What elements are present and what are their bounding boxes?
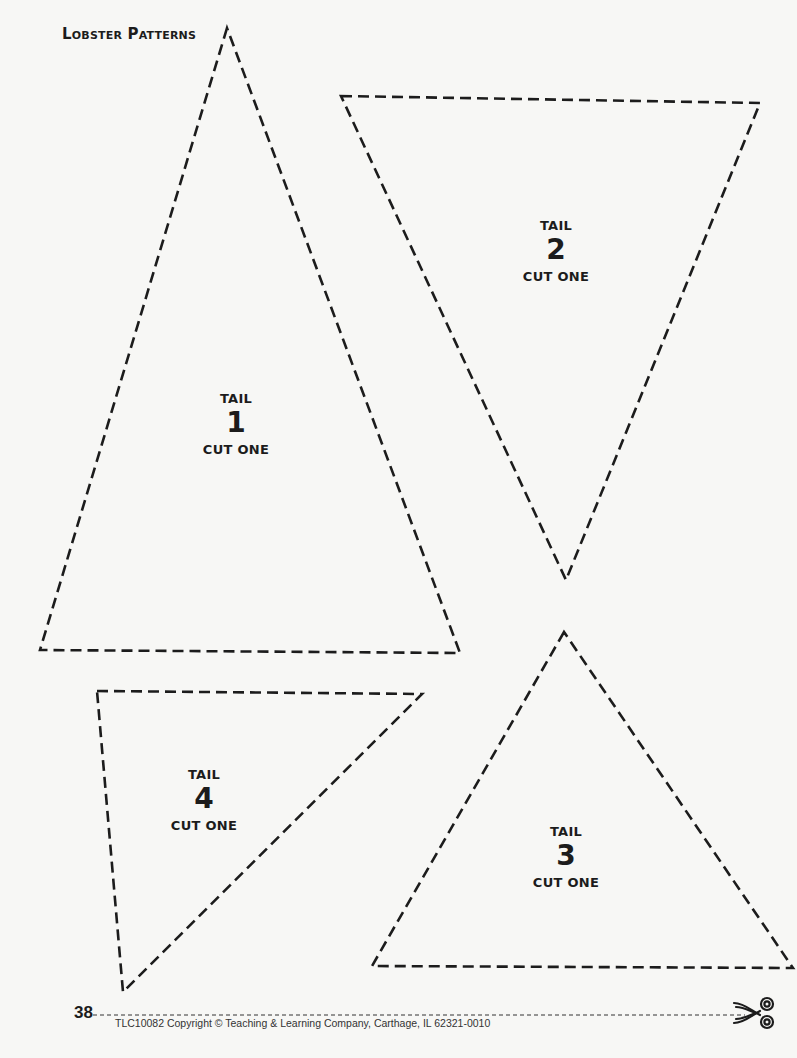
- tail-3-label: TAIL 3 CUT ONE: [533, 825, 599, 889]
- tail-2-number: 2: [523, 236, 589, 264]
- tail-4-instruction: CUT ONE: [171, 819, 237, 832]
- tail-2-instruction: CUT ONE: [523, 270, 589, 283]
- tail-3-number: 3: [533, 842, 599, 870]
- tail-4-number: 4: [171, 785, 237, 813]
- copyright-notice: TLC10082 Copyright © Teaching & Learning…: [115, 1017, 490, 1029]
- tail-1-outline: [40, 28, 460, 653]
- tail-3-title: TAIL: [533, 825, 599, 838]
- tail-1-number: 1: [203, 409, 269, 437]
- tail-2-title: TAIL: [523, 219, 589, 232]
- pattern-shapes: [0, 0, 797, 1058]
- tail-1-title: TAIL: [203, 392, 269, 405]
- tail-3-instruction: CUT ONE: [533, 876, 599, 889]
- tail-1-instruction: CUT ONE: [203, 443, 269, 456]
- tail-4-title: TAIL: [171, 768, 237, 781]
- tail-3-outline: [372, 632, 793, 968]
- tail-2-label: TAIL 2 CUT ONE: [523, 219, 589, 283]
- tail-1-label: TAIL 1 CUT ONE: [203, 392, 269, 456]
- tail-4-label: TAIL 4 CUT ONE: [171, 768, 237, 832]
- tail-2-outline: [341, 96, 760, 580]
- tail-4-outline: [97, 691, 422, 992]
- scissors-icon: [730, 993, 778, 1033]
- page-number: 38: [74, 1003, 93, 1023]
